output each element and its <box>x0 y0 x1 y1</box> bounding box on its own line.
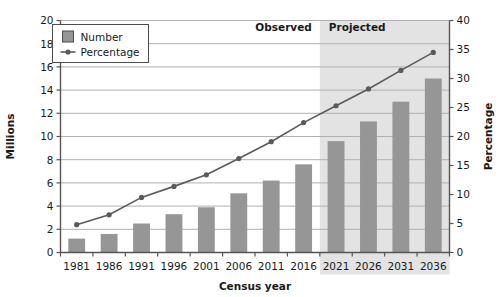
y-tick-label-left-6: 6 <box>47 177 54 189</box>
data-point-2001 <box>204 172 209 177</box>
x-tick-label-2016: 2016 <box>290 260 317 272</box>
data-point-1981 <box>74 222 79 227</box>
x-tick-label-2006: 2006 <box>225 260 252 272</box>
projected-region-label: Projected <box>329 21 386 33</box>
x-tick-label-2011: 2011 <box>258 260 285 272</box>
y-tick-label-right-35: 35 <box>457 43 470 55</box>
x-tick-label-1986: 1986 <box>96 260 123 272</box>
data-point-2006 <box>236 156 241 161</box>
bar-2026 <box>360 121 377 252</box>
y-tick-label-right-15: 15 <box>457 159 470 171</box>
bar-2011 <box>263 181 280 253</box>
x-tick-label-1991: 1991 <box>128 260 155 272</box>
x-tick-label-2001: 2001 <box>193 260 220 272</box>
x-tick-label-2021: 2021 <box>323 260 350 272</box>
y-tick-label-right-0: 0 <box>457 246 464 258</box>
y-tick-label-left-18: 18 <box>40 38 53 50</box>
bar-2036 <box>425 79 442 253</box>
census-population-chart: 0246810121416182005101520253035401981198… <box>0 0 502 297</box>
y-tick-label-right-20: 20 <box>457 130 470 142</box>
y-tick-label-right-40: 40 <box>457 14 470 26</box>
data-point-2021 <box>333 103 338 108</box>
y-tick-label-right-30: 30 <box>457 72 470 84</box>
y-tick-label-left-8: 8 <box>47 154 54 166</box>
bar-1991 <box>133 224 150 253</box>
y-tick-label-right-10: 10 <box>457 188 470 200</box>
data-point-1996 <box>171 184 176 189</box>
y-tick-label-left-10: 10 <box>40 130 53 142</box>
x-tick-label-1981: 1981 <box>63 260 90 272</box>
legend-label-number: Number <box>81 31 124 43</box>
data-point-2036 <box>431 50 436 55</box>
x-tick-label-1996: 1996 <box>161 260 188 272</box>
bar-2006 <box>230 193 247 252</box>
y-axis-title-right: Percentage <box>482 103 494 171</box>
y-tick-label-left-20: 20 <box>40 14 53 26</box>
bar-1981 <box>68 239 85 253</box>
y-axis-title-left: Millions <box>4 114 16 160</box>
x-tick-label-2026: 2026 <box>355 260 382 272</box>
legend-marker-percentage <box>65 49 70 54</box>
y-tick-label-right-5: 5 <box>457 217 464 229</box>
data-point-2016 <box>301 120 306 125</box>
y-tick-label-left-4: 4 <box>47 200 54 212</box>
bar-1986 <box>101 234 118 253</box>
bar-2016 <box>295 164 312 252</box>
legend-swatch-number <box>63 31 74 42</box>
y-tick-label-left-14: 14 <box>40 84 54 96</box>
y-tick-label-right-25: 25 <box>457 101 470 113</box>
bar-1996 <box>166 214 183 252</box>
data-point-1986 <box>107 212 112 217</box>
y-tick-label-left-0: 0 <box>47 246 54 258</box>
legend-label-percentage: Percentage <box>81 46 140 58</box>
chart-container: 0246810121416182005101520253035401981198… <box>0 0 502 297</box>
y-tick-label-left-2: 2 <box>47 223 54 235</box>
x-tick-label-2031: 2031 <box>388 260 415 272</box>
data-point-1991 <box>139 195 144 200</box>
bar-2031 <box>392 102 409 253</box>
bar-2021 <box>328 141 345 252</box>
y-tick-label-left-12: 12 <box>40 107 53 119</box>
bar-2001 <box>198 207 215 252</box>
data-point-2031 <box>398 68 403 73</box>
observed-region-label: Observed <box>255 21 311 33</box>
x-tick-label-2036: 2036 <box>420 260 447 272</box>
data-point-2026 <box>366 86 371 91</box>
y-tick-label-left-16: 16 <box>40 61 54 73</box>
x-axis-title: Census year <box>219 280 292 292</box>
data-point-2011 <box>269 139 274 144</box>
